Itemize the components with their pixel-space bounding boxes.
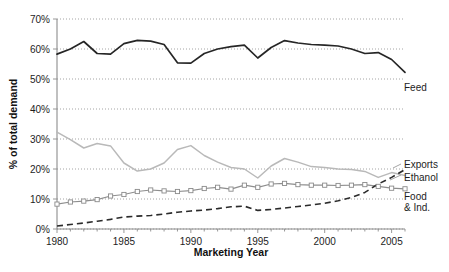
data-point-marker: [282, 181, 286, 185]
y-tick-label: 40%: [30, 104, 50, 115]
data-point-marker: [296, 183, 300, 187]
data-point-marker: [189, 189, 193, 193]
series-line-feed: [57, 40, 405, 72]
y-tick-label: 30%: [30, 134, 50, 145]
x-tick-label: 2000: [314, 236, 337, 247]
y-tick-label: 60%: [30, 44, 50, 55]
data-point-marker: [68, 200, 72, 204]
data-point-marker: [135, 189, 139, 193]
y-axis-title: % of total demand: [7, 79, 19, 169]
x-tick-marks: [57, 229, 405, 233]
data-point-marker: [323, 183, 327, 187]
data-point-marker: [108, 194, 112, 198]
series-label-ethanol: Ethanol: [404, 172, 438, 183]
data-point-marker: [55, 202, 59, 206]
data-point-marker: [363, 183, 367, 187]
x-axis-title: Marketing Year: [194, 246, 269, 258]
y-tick-label: 10%: [30, 194, 50, 205]
data-point-marker: [336, 183, 340, 187]
y-tick-label: 50%: [30, 74, 50, 85]
y-tick-label: 0%: [36, 224, 51, 235]
y-tick-label: 20%: [30, 164, 50, 175]
exports-leader-line: [393, 164, 401, 168]
y-tick-labels: 0%10%20%30%40%50%60%70%: [30, 14, 57, 235]
data-point-marker: [229, 187, 233, 191]
data-point-marker: [349, 183, 353, 187]
x-tick-label: 1980: [46, 236, 69, 247]
chart-container: 0%10%20%30%40%50%60%70% 1980198519901995…: [0, 0, 449, 272]
x-tick-label: 2005: [380, 236, 403, 247]
y-tick-label: 70%: [30, 14, 50, 25]
data-point-marker: [376, 184, 380, 188]
data-point-marker: [390, 186, 394, 190]
line-chart: 0%10%20%30%40%50%60%70% 1980198519901995…: [0, 0, 449, 272]
data-point-marker: [309, 183, 313, 187]
data-point-marker: [82, 199, 86, 203]
data-point-marker: [122, 192, 126, 196]
series-label-food: Food: [404, 191, 427, 202]
data-point-marker: [175, 189, 179, 193]
data-point-marker: [149, 188, 153, 192]
data-point-marker: [95, 198, 99, 202]
series-label-food-cont: & Ind.: [404, 202, 430, 213]
series-label-feed: Feed: [404, 82, 427, 93]
data-point-marker: [256, 185, 260, 189]
data-point-marker: [269, 182, 273, 186]
data-point-marker: [202, 186, 206, 190]
series-label-exports: Exports: [404, 159, 438, 170]
data-point-marker: [242, 183, 246, 187]
data-point-marker: [216, 185, 220, 189]
data-point-marker: [162, 189, 166, 193]
x-tick-label: 1985: [113, 236, 136, 247]
